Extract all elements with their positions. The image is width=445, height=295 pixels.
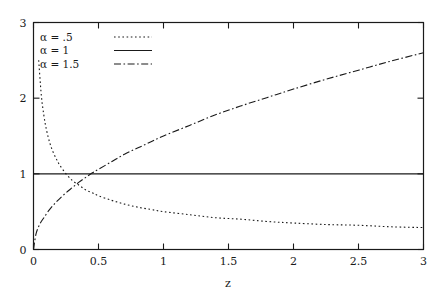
legend-label-0: α = .5: [40, 31, 73, 43]
x-tick-label: 3: [420, 255, 427, 268]
x-tick-label: 0: [30, 255, 37, 268]
chart-figure: 00.511.522.53 0123 z α = .5α = 1α = 1.5: [0, 0, 445, 295]
line-chart-svg: 00.511.522.53 0123 z α = .5α = 1α = 1.5: [0, 0, 445, 295]
x-axis-title: z: [225, 277, 231, 290]
x-tick-label: 2: [290, 255, 297, 268]
y-tick-label: 1: [20, 168, 27, 181]
y-tick-label: 0: [20, 244, 27, 257]
legend-label-2: α = 1.5: [40, 58, 79, 70]
x-tick-label: 1: [160, 255, 167, 268]
x-tick-label: 2.5: [350, 255, 368, 268]
y-tick-label: 2: [20, 92, 27, 105]
y-tick-label: 3: [20, 17, 27, 30]
x-tick-label: 0.5: [90, 255, 108, 268]
x-tick-label: 1.5: [220, 255, 238, 268]
legend-label-1: α = 1: [40, 44, 69, 56]
